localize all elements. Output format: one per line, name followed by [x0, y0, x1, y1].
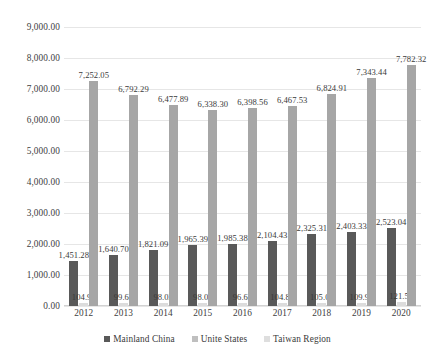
bar-taiwan-2018: 6,824.91: [327, 94, 336, 306]
bar-group-2020: 2,523.04121.557,782.32: [381, 27, 421, 306]
legend-label: Unite States: [201, 334, 247, 344]
bar-taiwan-2015: 6,338.30: [208, 110, 217, 306]
x-axis-label-2017: 2017: [262, 308, 302, 326]
bar-usa-2017: 104.80: [278, 303, 287, 306]
y-axis-tick-label: 9,000.00: [0, 22, 60, 32]
bar-usa-2019: 109.93: [357, 303, 366, 306]
legend-swatch-icon: [264, 336, 270, 342]
x-axis-label-2020: 2020: [381, 308, 421, 326]
bar-taiwan-2016: 6,398.56: [248, 108, 257, 306]
legend-label: Mainland China: [113, 334, 175, 344]
y-axis-tick-label: 2,000.00: [0, 239, 60, 249]
chart-legend: Mainland ChinaUnite StatesTaiwan Region: [0, 334, 435, 344]
bar-value-label: 2,325.31: [297, 223, 327, 233]
y-axis-tick-label: 6,000.00: [0, 115, 60, 125]
x-axis-label-2013: 2013: [104, 308, 144, 326]
legend-item-taiwan[interactable]: Taiwan Region: [264, 334, 331, 344]
x-axis-label-2018: 2018: [302, 308, 342, 326]
y-axis-tick-label: 5,000.00: [0, 146, 60, 156]
bar-taiwan-2019: 7,343.44: [367, 78, 376, 306]
bar-value-label: 2,104.43: [257, 230, 287, 240]
x-axis-label-2019: 2019: [342, 308, 382, 326]
legend-label: Taiwan Region: [273, 334, 331, 344]
bar-group-2017: 2,104.43104.806,467.53: [262, 27, 302, 306]
bar-usa-2015: 98.03: [198, 303, 207, 306]
bar-usa-2020: 121.55: [397, 302, 406, 306]
bar-usa-2016: 96.64: [238, 303, 247, 306]
x-axis-label-2016: 2016: [223, 308, 263, 326]
y-axis-tick-label: 4,000.00: [0, 177, 60, 187]
bar-usa-2018: 105.05: [317, 303, 326, 306]
x-axis-label-2014: 2014: [143, 308, 183, 326]
bar-value-label: 1,451.28: [59, 250, 89, 260]
x-axis-label-2012: 2012: [64, 308, 104, 326]
gridline: [64, 306, 421, 307]
bar-value-label: 1,640.70: [98, 244, 128, 254]
x-axis-label-2015: 2015: [183, 308, 223, 326]
y-axis-tick-label: 3,000.00: [0, 208, 60, 218]
bar-group-2016: 1,985.3896.646,398.56: [223, 27, 263, 306]
bar-taiwan-2017: 6,467.53: [288, 106, 297, 306]
bar-value-label: 1,821.09: [138, 239, 168, 249]
legend-swatch-icon: [104, 336, 110, 342]
bar-group-2013: 1,640.7099.646,792.29: [104, 27, 144, 306]
bar-value-label: 2,403.33: [336, 221, 366, 231]
legend-item-china[interactable]: Mainland China: [104, 334, 175, 344]
y-axis-tick-label: 8,000.00: [0, 53, 60, 63]
bar-group-2014: 1,821.0998.026,477.89: [143, 27, 183, 306]
plot-area: 0.001,000.002,000.003,000.004,000.005,00…: [64, 27, 421, 306]
legend-swatch-icon: [192, 336, 198, 342]
bar-group-2015: 1,965.3998.036,338.30: [183, 27, 223, 306]
bar-groups: 1,451.28104.977,252.051,640.7099.646,792…: [64, 27, 421, 306]
x-axis-labels: 201220132014201520162017201820192020: [64, 308, 421, 326]
bar-value-label: 1,965.39: [178, 234, 208, 244]
y-axis-tick-label: 7,000.00: [0, 84, 60, 94]
y-axis-tick-label: 0.00: [0, 301, 60, 311]
bar-usa-2014: 98.02: [159, 303, 168, 306]
legend-item-usa[interactable]: Unite States: [192, 334, 247, 344]
y-axis-tick-label: 1,000.00: [0, 270, 60, 280]
bar-taiwan-2014: 6,477.89: [169, 105, 178, 306]
bar-usa-2012: 104.97: [79, 303, 88, 306]
bar-taiwan-2020: 7,782.32: [407, 65, 416, 306]
bar-usa-2013: 99.64: [119, 303, 128, 306]
bar-group-2019: 2,403.33109.937,343.44: [342, 27, 382, 306]
bar-group-2018: 2,325.31105.056,824.91: [302, 27, 342, 306]
bar-taiwan-2013: 6,792.29: [129, 95, 138, 306]
bar-value-label: 1,985.38: [217, 233, 247, 243]
bar-taiwan-2012: 7,252.05: [89, 81, 98, 306]
bar-chart: 0.001,000.002,000.003,000.004,000.005,00…: [0, 0, 435, 360]
bar-group-2012: 1,451.28104.977,252.05: [64, 27, 104, 306]
bar-value-label: 7,782.32: [396, 54, 426, 64]
bar-value-label: 2,523.04: [376, 217, 406, 227]
